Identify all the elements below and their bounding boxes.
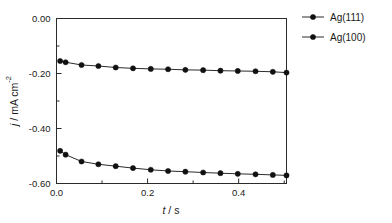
data-point (235, 68, 240, 73)
data-point (270, 172, 275, 177)
data-point (148, 167, 153, 172)
data-point (79, 62, 84, 67)
data-point (148, 66, 153, 71)
x-tick-label-1: 0.2 (141, 187, 154, 198)
legend-marker-icon (310, 14, 315, 19)
data-point (79, 159, 84, 164)
data-point (130, 166, 135, 171)
data-point (183, 67, 188, 72)
data-point (96, 63, 101, 68)
data-point (235, 171, 240, 176)
legend-label: Ag(100) (330, 32, 366, 43)
legend-label: Ag(111) (330, 12, 364, 23)
chart-figure: 0.00.20.4 0.00-0.20-0.40-0.60 t / s j / … (0, 0, 392, 223)
data-point (218, 68, 223, 73)
x-tick-label-0: 0.0 (50, 187, 63, 198)
y-axis-title-group: j / mA cm-2 (4, 76, 21, 128)
x-axis-tick-labels: 0.00.20.4 (50, 187, 245, 198)
data-point (63, 152, 68, 157)
data-series-group (58, 58, 290, 178)
data-point (165, 67, 170, 72)
data-point (183, 169, 188, 174)
x-axis-major-ticks (57, 179, 239, 184)
data-point (201, 68, 206, 73)
x-tick-label-2: 0.4 (232, 187, 245, 198)
data-point (284, 70, 289, 75)
series-ag111 (58, 58, 290, 75)
legend-item-ag100[interactable]: Ag(100) (302, 32, 366, 43)
data-point (253, 172, 258, 177)
chart-legend: Ag(111)Ag(100) (302, 12, 366, 43)
y-axis-tick-labels: 0.00-0.20-0.40-0.60 (29, 13, 51, 189)
data-point (130, 66, 135, 71)
data-point (58, 148, 63, 153)
data-point (253, 69, 258, 74)
data-point (63, 60, 68, 65)
data-point (113, 65, 118, 70)
y-tick-label-0: 0.00 (32, 13, 51, 24)
x-axis-title: t / s (163, 204, 180, 216)
series-ag100 (58, 148, 290, 178)
data-point (218, 171, 223, 176)
chart-canvas: 0.00.20.4 0.00-0.20-0.40-0.60 t / s j / … (0, 0, 392, 223)
series-line (60, 61, 286, 73)
legend-item-ag111[interactable]: Ag(111) (302, 12, 364, 23)
data-point (284, 173, 289, 178)
y-axis-title: j / mA cm-2 (4, 76, 21, 128)
legend-marker-icon (310, 34, 315, 39)
data-point (58, 58, 63, 63)
y-tick-label-1: -0.20 (29, 68, 51, 79)
data-point (165, 168, 170, 173)
data-point (270, 69, 275, 74)
y-tick-label-3: -0.60 (29, 178, 51, 189)
y-tick-label-2: -0.40 (29, 123, 51, 134)
data-point (113, 164, 118, 169)
data-point (96, 162, 101, 167)
data-point (201, 170, 206, 175)
series-line (60, 151, 286, 176)
plot-frame (57, 19, 287, 184)
